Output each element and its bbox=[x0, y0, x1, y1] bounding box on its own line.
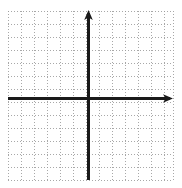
coordinate-plane-svg bbox=[0, 0, 182, 188]
coordinate-plane-figure bbox=[0, 0, 182, 188]
figure-background bbox=[0, 0, 182, 188]
